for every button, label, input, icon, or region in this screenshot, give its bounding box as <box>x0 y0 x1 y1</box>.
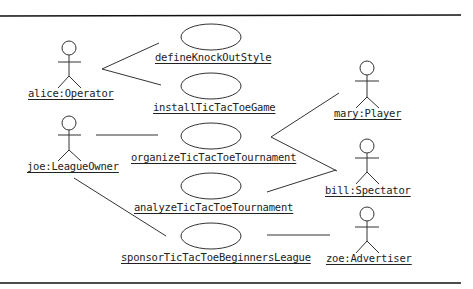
actor-bill-icon <box>355 139 379 184</box>
actor-label-joe: joe:LeagueOwner <box>27 160 119 172</box>
use-case-ellipse-uc4 <box>181 173 241 199</box>
use-case-diagram <box>0 0 473 289</box>
actor-alice-icon <box>58 41 81 88</box>
actor-label-mary: mary:Player <box>334 107 401 119</box>
use-case-label-uc2: installTicTacToeGame <box>153 101 275 113</box>
actor-zoe-icon <box>355 207 379 253</box>
use-case-label-uc1: defineKnockOutStyle <box>155 51 271 63</box>
use-case-ellipse-uc2 <box>181 73 241 99</box>
use-case-label-uc3: organizeTicTacToeTournament <box>131 151 296 163</box>
assoc-alice-uc <box>102 43 161 85</box>
actor-mary-icon <box>355 61 379 108</box>
actor-label-bill: bill:Spectator <box>325 184 411 196</box>
actor-label-zoe: zoe:Advertiser <box>326 252 412 264</box>
use-case-label-uc5: sponsorTicTacToeBeginnersLeague <box>121 251 311 263</box>
actor-joe-icon <box>58 116 81 161</box>
top-border <box>0 15 461 16</box>
use-case-ellipse-uc1 <box>181 24 241 50</box>
use-case-ellipse-uc5 <box>181 223 241 249</box>
actor-label-alice: alice:Operator <box>28 87 114 99</box>
use-case-label-uc4: analyzeTicTacToeTournament <box>134 201 293 213</box>
use-case-ellipse-uc3 <box>181 123 241 149</box>
